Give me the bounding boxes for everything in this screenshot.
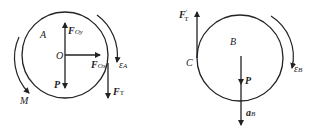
- label-foy: FOy: [67, 25, 84, 36]
- label-fox: FOx: [90, 59, 107, 70]
- label-m: M: [19, 95, 29, 106]
- angular-accel-b-arrow: [271, 16, 293, 68]
- label-o: O: [56, 50, 63, 61]
- body-b: F′T B C P aB εB: [178, 8, 303, 125]
- label-c: C: [186, 57, 193, 68]
- label-epsilon-a: εA: [119, 59, 128, 70]
- label-ft-prime: F′T: [178, 8, 189, 23]
- label-ab: aB: [246, 107, 256, 118]
- label-p-b: P: [245, 75, 252, 86]
- moment-m-arrow: [14, 37, 29, 93]
- label-epsilon-b: εB: [294, 63, 303, 74]
- label-b: B: [230, 36, 236, 47]
- disk-b-outline: [197, 15, 283, 101]
- label-p-a: P: [54, 79, 61, 90]
- free-body-diagram: A O FOy FOx P FT εA M F′T B C P aB εB: [0, 0, 317, 131]
- label-ft: FT: [112, 86, 125, 97]
- body-a: A O FOy FOx P FT εA M: [14, 12, 127, 106]
- angular-accel-a-arrow: [97, 15, 117, 62]
- label-a: A: [39, 29, 47, 40]
